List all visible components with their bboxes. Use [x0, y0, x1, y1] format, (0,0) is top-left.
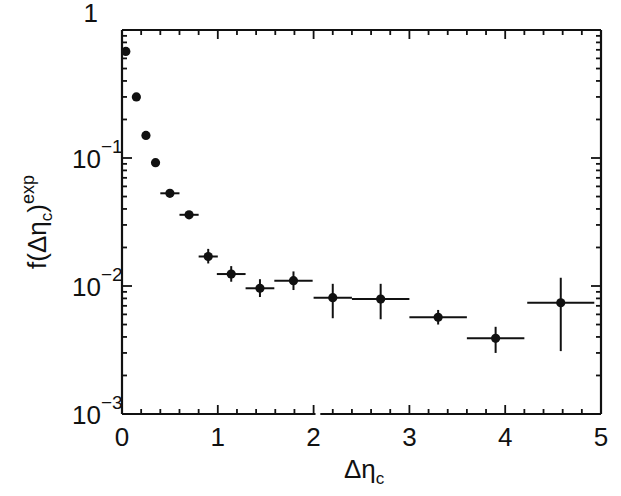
x-tick-label: 1: [211, 422, 225, 452]
data-point: [467, 327, 524, 353]
data-point: [132, 92, 141, 101]
y-tick-label: 1: [84, 0, 98, 28]
data-point: [352, 284, 409, 319]
x-tick-label: 5: [594, 422, 608, 452]
y-tick-labels: 110−110−210−3: [72, 0, 123, 430]
data-point: [121, 47, 130, 56]
x-tick-label: 0: [115, 422, 129, 452]
axis-ticks: [122, 30, 601, 414]
plot-frame: [122, 30, 601, 414]
data-points: [121, 47, 594, 353]
data-point: [314, 284, 352, 318]
data-point: [246, 279, 275, 297]
data-point: [409, 310, 466, 325]
data-point: [274, 271, 312, 290]
x-tick-labels: 012345: [115, 422, 608, 452]
data-point: [141, 131, 150, 140]
data-point: [160, 189, 179, 198]
y-axis-title: f(Δηc)exp: [18, 175, 56, 269]
y-tick-label: 10−2: [72, 264, 123, 302]
data-point: [527, 278, 594, 351]
x-tick-label: 2: [306, 422, 320, 452]
data-point: [179, 210, 198, 219]
x-axis-title: Δηc: [344, 454, 385, 488]
log-scale-chart: 012345 110−110−210−3 Δηc f(Δηc)exp: [0, 0, 621, 496]
data-point: [199, 249, 218, 264]
y-tick-label: 10−1: [72, 136, 123, 174]
x-tick-label: 3: [402, 422, 416, 452]
data-point: [151, 158, 160, 167]
x-tick-label: 4: [498, 422, 512, 452]
data-point: [217, 266, 246, 282]
